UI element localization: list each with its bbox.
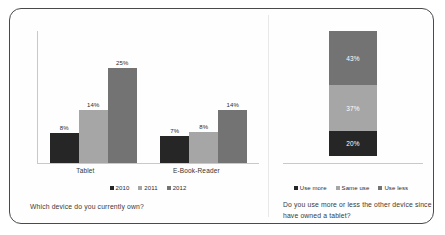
bar-value-label: 14% (218, 102, 247, 108)
question-text-left: Which device do you currently own? (30, 202, 260, 213)
grouped-bar-chart: 8% 14% 25% (37, 31, 259, 164)
legend-label: 2012 (173, 185, 187, 191)
stacked-bar-wrapper: 43% 37% 20% (283, 31, 423, 163)
legend-label: 2011 (144, 185, 157, 191)
bar-slot-tablet-2011: 14% (79, 31, 108, 163)
panel-right-device-usage: 43% 37% 20% Use more (269, 9, 433, 223)
legend-label: Same use (342, 185, 370, 191)
legend-label: Use less (384, 185, 408, 191)
legend-swatch-icon (294, 186, 298, 190)
stacked-bar-chart: 43% 37% 20% (283, 31, 423, 164)
segment-value-label: 37% (346, 105, 359, 112)
category-label-ebook-reader: E-Book-Reader (173, 167, 220, 174)
bar-slot-tablet-2010: 8% (50, 31, 79, 163)
category-label-tablet: Tablet (76, 167, 94, 174)
stack-segment-same-use[interactable]: 37% (329, 85, 377, 131)
bar-tablet-2010[interactable] (50, 133, 79, 163)
x-axis-line (283, 163, 423, 164)
bar-value-label: 14% (79, 102, 108, 108)
legend-swatch-icon (138, 186, 142, 190)
bar-value-label: 8% (50, 125, 79, 131)
panel-left-device-ownership: 8% 14% 25% (10, 9, 268, 223)
legend-swatch-icon (110, 186, 114, 190)
x-axis-category-labels: Tablet E-Book-Reader (37, 167, 259, 174)
bar-slot-tablet-2012: 25% (108, 31, 137, 163)
legend-label: Use more (300, 185, 327, 191)
bar-tablet-2012[interactable] (108, 68, 137, 163)
bar-value-label: 25% (108, 60, 137, 66)
legend-item-use-more[interactable]: Use more (294, 185, 327, 191)
bar-tablet-2011[interactable] (79, 110, 108, 163)
x-axis-line (37, 163, 259, 164)
legend-swatch-icon (378, 186, 382, 190)
bar-slot-ebook-2012: 14% (218, 31, 247, 163)
legend-years: 2010 2011 2012 (37, 185, 259, 191)
legend-swatch-icon (167, 186, 171, 190)
bar-ebook-2012[interactable] (218, 110, 247, 163)
stacked-bar: 43% 37% 20% (329, 31, 377, 163)
bar-value-label: 8% (189, 124, 218, 130)
bar-groups: 8% 14% 25% (38, 31, 259, 163)
legend-label: 2010 (116, 185, 130, 191)
question-text-right: Do you use more or less the other device… (283, 200, 434, 221)
legend-item-use-less[interactable]: Use less (378, 185, 408, 191)
stack-segment-use-more[interactable]: 20% (329, 131, 377, 156)
bar-slot-ebook-2010: 7% (160, 31, 189, 163)
bar-ebook-2011[interactable] (189, 132, 218, 163)
legend-item-2010[interactable]: 2010 (110, 185, 130, 191)
bar-value-label: 7% (160, 128, 189, 134)
segment-value-label: 20% (346, 140, 359, 147)
legend-item-2012[interactable]: 2012 (167, 185, 187, 191)
slide-frame: 8% 14% 25% (9, 8, 434, 224)
stack-segment-use-less[interactable]: 43% (329, 31, 377, 85)
segment-value-label: 43% (346, 55, 359, 62)
bar-ebook-2010[interactable] (160, 136, 189, 163)
legend-swatch-icon (336, 186, 340, 190)
legend-usage: Use more Same use Use less (269, 185, 433, 191)
legend-item-2011[interactable]: 2011 (138, 185, 157, 191)
legend-item-same-use[interactable]: Same use (336, 185, 370, 191)
panels-container: 8% 14% 25% (10, 9, 433, 223)
bar-slot-ebook-2011: 8% (189, 31, 218, 163)
bar-group-ebook-reader: 7% 8% 14% (160, 31, 247, 163)
bar-group-tablet: 8% 14% 25% (50, 31, 137, 163)
